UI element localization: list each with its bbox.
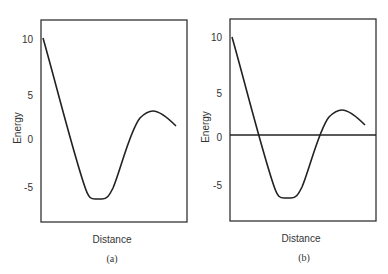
figure: 10 5 0 -5 Energy Distance (a) 10 5 0 -5 … <box>0 0 388 274</box>
plot-frame <box>230 19 376 221</box>
chart-canvas: 10 5 0 -5 Energy Distance (a) 10 5 0 -5 … <box>0 0 388 274</box>
y-tick-5: 5 <box>216 88 222 99</box>
energy-curve <box>43 38 176 199</box>
y-axis-label: Energy <box>200 111 211 143</box>
y-tick-0: 0 <box>27 134 33 145</box>
y-tick-10: 10 <box>211 32 223 43</box>
y-tick-minus5: -5 <box>213 180 222 191</box>
panel-caption: (a) <box>106 253 117 265</box>
x-axis-label: Distance <box>282 233 321 244</box>
panel-a: 10 5 0 -5 Energy Distance (a) <box>12 20 187 265</box>
plot-frame <box>41 20 187 222</box>
y-tick-5: 5 <box>27 90 33 101</box>
y-tick-minus5: -5 <box>24 182 33 193</box>
y-tick-0: 0 <box>216 132 222 143</box>
x-axis-label: Distance <box>93 234 132 245</box>
y-tick-10: 10 <box>22 34 34 45</box>
y-axis-label: Energy <box>12 112 23 144</box>
energy-curve <box>232 37 365 198</box>
panel-caption: (b) <box>298 252 310 264</box>
panel-b: 10 5 0 -5 Energy Distance (b) <box>200 19 376 264</box>
